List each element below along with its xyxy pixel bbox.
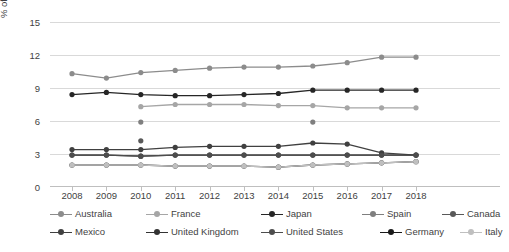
- legend-swatch-icon: [261, 209, 283, 219]
- data-point: [345, 153, 350, 158]
- legend-label: France: [171, 209, 201, 219]
- legend-swatch-icon: [146, 209, 168, 219]
- series-united-states: [69, 153, 418, 159]
- data-point: [138, 120, 143, 125]
- data-point: [69, 153, 74, 158]
- data-point: [138, 162, 143, 167]
- data-point: [207, 102, 212, 107]
- series-japan: [69, 88, 418, 99]
- legend-item-mexico[interactable]: Mexico: [50, 223, 105, 241]
- legend-label: Japan: [286, 209, 312, 219]
- legend-item-italy[interactable]: Italy: [460, 223, 502, 241]
- data-point: [310, 63, 315, 68]
- legend-swatch-icon: [460, 227, 482, 237]
- data-point: [413, 88, 418, 93]
- legend-label: United States: [286, 227, 343, 237]
- data-point: [379, 153, 384, 158]
- data-point: [345, 142, 350, 147]
- legend-row-2: MexicoUnited KingdomUnited StatesGermany…: [50, 223, 502, 241]
- legend-item-united-states[interactable]: United States: [261, 223, 343, 241]
- data-point: [345, 161, 350, 166]
- data-point: [104, 153, 109, 158]
- data-point: [207, 153, 212, 158]
- data-point: [379, 88, 384, 93]
- data-point: [310, 162, 315, 167]
- legend-label: Italy: [485, 227, 502, 237]
- data-point: [104, 90, 109, 95]
- data-point: [241, 164, 246, 169]
- data-point: [241, 102, 246, 107]
- data-point: [276, 153, 281, 158]
- series-italy: [69, 159, 418, 170]
- legend-swatch-icon: [380, 227, 402, 237]
- data-point: [138, 104, 143, 109]
- data-point: [345, 88, 350, 93]
- data-point: [241, 65, 246, 70]
- data-point: [413, 159, 418, 164]
- data-point: [207, 93, 212, 98]
- data-point: [173, 102, 178, 107]
- data-point: [379, 160, 384, 165]
- legend-item-france[interactable]: France: [146, 205, 201, 223]
- data-point: [413, 153, 418, 158]
- data-point: [104, 162, 109, 167]
- data-point: [413, 105, 418, 110]
- data-point: [207, 164, 212, 169]
- data-point: [379, 55, 384, 60]
- data-point: [138, 92, 143, 97]
- data-point: [276, 65, 281, 70]
- legend-label: Mexico: [75, 227, 105, 237]
- data-point: [241, 144, 246, 149]
- data-point: [379, 105, 384, 110]
- legend-label: United Kingdom: [171, 227, 239, 237]
- series-australia: [69, 55, 418, 81]
- data-point: [69, 92, 74, 97]
- legend-item-japan[interactable]: Japan: [261, 205, 312, 223]
- legend-item-canada[interactable]: Canada: [442, 205, 500, 223]
- data-point: [173, 68, 178, 73]
- legend-item-germany[interactable]: Germany: [380, 223, 444, 241]
- data-point: [276, 91, 281, 96]
- data-point: [138, 147, 143, 152]
- data-point: [207, 144, 212, 149]
- series-layer: [0, 0, 509, 200]
- legend-swatch-icon: [261, 227, 283, 237]
- line-chart: % of tourism contribution in GDP 15 12 9…: [0, 0, 509, 252]
- legend-swatch-icon: [50, 209, 72, 219]
- data-point: [413, 55, 418, 60]
- data-point: [173, 153, 178, 158]
- data-point: [241, 92, 246, 97]
- legend-swatch-icon: [50, 227, 72, 237]
- data-point: [173, 145, 178, 150]
- data-point: [69, 147, 74, 152]
- data-point: [276, 165, 281, 170]
- data-point: [241, 153, 246, 158]
- data-point: [276, 144, 281, 149]
- legend-item-australia[interactable]: Australia: [50, 205, 112, 223]
- data-point: [276, 103, 281, 108]
- legend-swatch-icon: [362, 209, 384, 219]
- legend-item-united-kingdom[interactable]: United Kingdom: [146, 223, 239, 241]
- data-point: [104, 147, 109, 152]
- data-point: [310, 103, 315, 108]
- data-point: [138, 70, 143, 75]
- legend-swatch-icon: [146, 227, 168, 237]
- legend-label: Australia: [75, 209, 112, 219]
- data-point: [345, 60, 350, 65]
- legend-label: Canada: [467, 209, 500, 219]
- data-point: [138, 138, 143, 143]
- data-point: [104, 76, 109, 81]
- data-point: [207, 66, 212, 71]
- data-point: [310, 153, 315, 158]
- legend-item-spain[interactable]: Spain: [362, 205, 411, 223]
- data-point: [69, 162, 74, 167]
- legend-row-1: AustraliaFranceJapanSpainCanada: [50, 205, 502, 223]
- data-point: [69, 71, 74, 76]
- data-point: [345, 105, 350, 110]
- data-point: [173, 164, 178, 169]
- legend-swatch-icon: [442, 209, 464, 219]
- data-point: [173, 93, 178, 98]
- x-tick-label-2018: 2018: [396, 191, 436, 201]
- legend-label: Germany: [405, 227, 444, 237]
- data-point: [138, 154, 143, 159]
